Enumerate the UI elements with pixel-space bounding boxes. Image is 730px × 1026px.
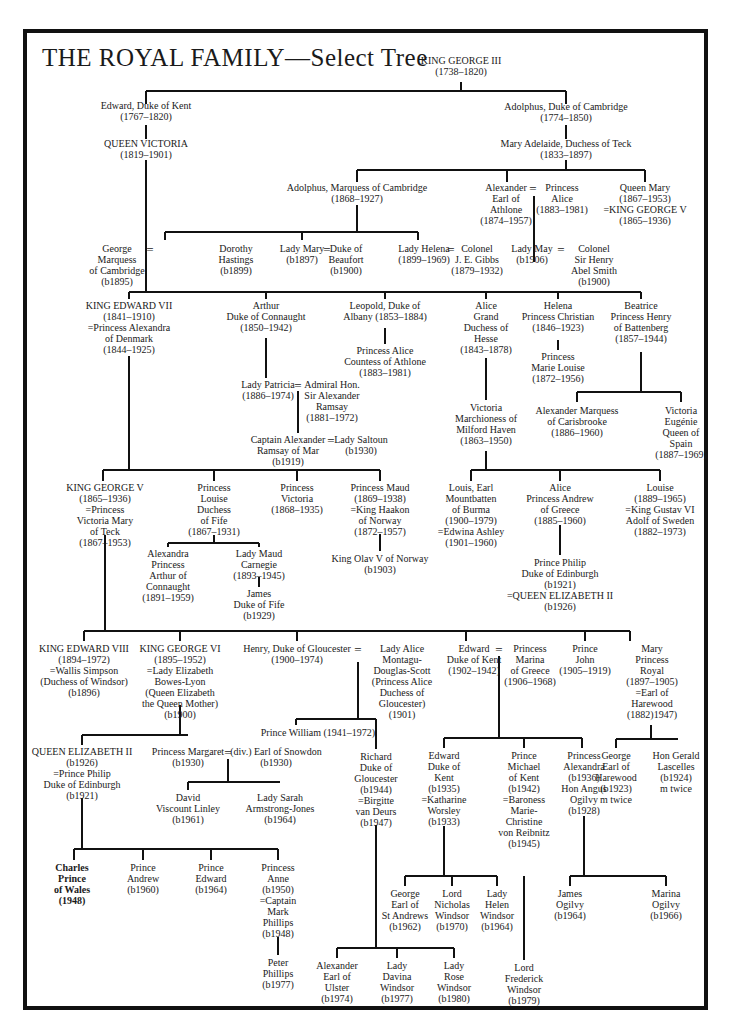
person-george-harewood: George Earl of Harewood (b1923) m twice xyxy=(595,750,637,805)
person-alice-hesse: Alice Grand Duchess of Hesse (1843–1878) xyxy=(460,300,512,355)
person-colonel-abel-smith: Colonel Sir Henry Abel Smith (b1900) xyxy=(571,243,617,287)
person-sarah-armstrong-jones: Lady Sarah Armstrong-Jones (b1964) xyxy=(246,792,315,825)
person-richard-gloucester: Richard Duke of Gloucester (b1944) =Birg… xyxy=(354,751,397,828)
person-lady-may: Lady May (b1906) xyxy=(511,243,552,265)
person-leopold-albany: Leopold, Duke of Albany (1853–1884) xyxy=(343,300,427,322)
person-prince-andrew: Prince Andrew (b1960) xyxy=(127,862,159,895)
person-colonel-gibbs: Colonel J. E. Gibbs (1879–1932) xyxy=(451,243,503,276)
person-lady-mary: Lady Mary (b1897) xyxy=(280,243,325,265)
person-arthur-connaught: Arthur Duke of Connaught (1850–1942) xyxy=(227,300,306,333)
person-king-george-vi: KING GEORGE VI (1895–1952) =Lady Elizabe… xyxy=(140,643,221,720)
person-alexandra-arthur: Alexandra Princess Arthur of Connaught (… xyxy=(142,548,194,603)
person-davina-windsor: Lady Davina Windsor (b1977) xyxy=(380,960,414,1004)
person-mary-princess-royal: Mary Princess Royal (1897–1905) =Earl of… xyxy=(626,643,678,720)
marriage-symbol: = xyxy=(294,380,301,391)
person-louise-sweden: Louise (1889–1965) =King Gustav VI Adolf… xyxy=(625,482,694,537)
person-helen-windsor: Lady Helen Windsor (b1964) xyxy=(480,888,514,932)
person-alice-andrew: Alice Princess Andrew of Greece (1885–19… xyxy=(526,482,594,526)
person-prince-philip: Prince Philip Duke of Edinburgh (b1921) … xyxy=(507,557,613,612)
person-louis-mountbatten: Louis, Earl Mountbatten of Burma (1900–1… xyxy=(438,482,504,548)
person-gerald-lascelles: Hon Gerald Lascelles (b1924) m twice xyxy=(653,750,700,794)
person-lady-helena: Lady Helena (1899–1969) xyxy=(398,243,450,265)
person-king-george-v: KING GEORGE V (1865–1936) =Princess Vict… xyxy=(66,482,144,548)
person-prince-michael: Prince Michael of Kent (b1942) =Baroness… xyxy=(498,750,549,849)
person-queen-elizabeth-ii: QUEEN ELIZABETH II (b1926) =Prince Phili… xyxy=(32,746,133,801)
person-duke-of-beaufort: Duke of Beaufort (b1900) xyxy=(329,243,364,276)
person-prince-john: Prince John (1905–1919) xyxy=(559,643,611,676)
marriage-symbol: = xyxy=(354,644,361,655)
person-alexander-ulster: Alexander Earl of Ulster (b1974) xyxy=(316,960,358,1004)
person-king-edward-vii: KING EDWARD VII (1841–1910) =Princess Al… xyxy=(86,300,172,355)
person-alexander-carisbrooke: Alexander Marquess of Carisbrooke (1886–… xyxy=(535,405,618,438)
person-beatrice: Beatrice Princess Henry of Battenberg (1… xyxy=(611,300,672,344)
person-princess-marina: Princess Marina of Greece (1906–1968) xyxy=(504,643,556,687)
person-mary-adelaide: Mary Adelaide, Duchess of Teck (1833–189… xyxy=(500,138,631,160)
person-queen-victoria: QUEEN VICTORIA (1819–1901) xyxy=(104,138,188,160)
person-king-george-iii: KING GEORGE III (1738–1820) xyxy=(421,55,502,77)
person-nicholas-windsor: Lord Nicholas Windsor (b1970) xyxy=(434,888,470,932)
person-henry-gloucester: Henry, Duke of Gloucester (1900–1974) xyxy=(243,643,351,665)
person-adolphus-duke-of-cambridge: Adolphus, Duke of Cambridge (1774–1850) xyxy=(504,101,627,123)
person-captain-ramsay: Captain Alexander Ramsay of Mar (b1919) xyxy=(251,434,326,467)
person-marina-ogilvy: Marina Ogilvy (b1966) xyxy=(650,888,682,921)
person-james-ogilvy: James Ogilvy (b1964) xyxy=(554,888,586,921)
person-helena-christian: Helena Princess Christian (1846–1923) xyxy=(522,300,595,333)
person-louise-fife: Princess Louise Duchess of Fife (1867–19… xyxy=(188,482,240,537)
person-admiral-ramsay: Admiral Hon. Sir Alexander Ramsay (1881–… xyxy=(304,379,360,423)
person-rose-windsor: Lady Rose Windsor (b1980) xyxy=(437,960,471,1004)
marriage-symbol: = xyxy=(146,244,153,255)
person-edward-kent-1902: Edward Duke of Kent (1902–1942) xyxy=(447,643,501,676)
person-prince-edward: Prince Edward (b1964) xyxy=(195,862,227,895)
person-princess-margaret: Princess Margaret (b1930) xyxy=(152,746,224,768)
person-marie-louise: Princess Marie Louise (1872–1956) xyxy=(531,351,585,384)
person-princess-alice-athlone: Princess Alice (1883–1981) xyxy=(536,182,588,215)
person-prince-william-gloucester: Prince William (1941–1972) xyxy=(261,727,375,738)
person-george-marquess: George Marquess of Cambridge (b1895) xyxy=(89,243,144,287)
person-earl-of-snowdon: (div.) Earl of Snowdon (b1930) xyxy=(230,746,322,768)
person-charles-prince-of-wales: Charles Prince of Wales (1948) xyxy=(54,862,90,906)
person-alexander-athlone: Alexander Earl of Athlone (1874–1957) xyxy=(480,182,532,226)
person-george-st-andrews: George Earl of St Andrews (b1962) xyxy=(382,888,428,932)
person-king-olav-v: King Olav V of Norway (b1903) xyxy=(332,553,429,575)
person-princess-anne: Princess Anne (b1950) =Captain Mark Phil… xyxy=(260,862,297,939)
person-frederick-windsor: Lord Frederick Windsor (b1979) xyxy=(505,962,543,1006)
person-maud-carnegie: Lady Maud Carnegie (1893–1945) xyxy=(233,548,285,581)
person-edward-kent-1935: Edward Duke of Kent (b1935) =Katharine W… xyxy=(421,750,466,827)
marriage-symbol: = xyxy=(495,644,502,655)
person-peter-phillips: Peter Phillips (b1977) xyxy=(262,957,294,990)
person-edward-duke-of-kent: Edward, Duke of Kent (1767–1820) xyxy=(101,100,192,122)
person-victoria-eugenie: Victoria Eugénie Queen of Spain (1887–19… xyxy=(655,405,707,460)
person-queen-mary: Queen Mary (1867–1953) =KING GEORGE V (1… xyxy=(603,182,686,226)
person-princess-maud: Princess Maud (1869–1938) =King Haakon o… xyxy=(350,482,409,537)
person-princess-victoria: Princess Victoria (1868–1935) xyxy=(271,482,323,515)
marriage-symbol: = xyxy=(557,244,564,255)
person-lady-saltoun: Lady Saltoun (b1930) xyxy=(334,434,388,456)
person-james-fife: James Duke of Fife (b1929) xyxy=(233,588,284,621)
person-victoria-milford-haven: Victoria Marchioness of Milford Haven (1… xyxy=(455,402,517,446)
person-david-linley: David Viscount Linley (b1961) xyxy=(156,792,220,825)
person-dorothy-hastings: Dorothy Hastings (b1899) xyxy=(219,243,254,276)
person-alice-countess-athlone: Princess Alice Countess of Athlone (1883… xyxy=(344,345,426,378)
person-king-edward-viii: KING EDWARD VIII (1894–1972) =Wallis Sim… xyxy=(39,643,129,698)
person-alice-gloucester: Lady Alice Montagu- Douglas-Scott (Princ… xyxy=(372,643,432,720)
person-lady-patricia: Lady Patricia (1886–1974) xyxy=(241,379,295,401)
person-adolphus-marquess: Adolphus, Marquess of Cambridge (1868–19… xyxy=(287,182,428,204)
